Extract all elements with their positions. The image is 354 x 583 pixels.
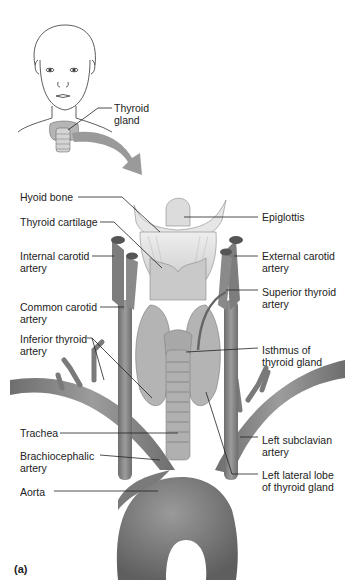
trachea-shape [166, 350, 190, 460]
left-common-carotid-shape [224, 300, 238, 480]
label-internal-carotid-artery: Internal carotid artery [20, 250, 89, 274]
thyroid-anatomy-figure: Thyroid gland Hyoid bone Thyroid cartila… [0, 0, 354, 583]
label-thyroid-gland-overview: Thyroid gland [114, 102, 154, 126]
label-aorta: Aorta [20, 486, 45, 498]
label-brachiocephalic-artery: Brachiocephalic artery [20, 450, 94, 474]
label-thyroid-cartilage: Thyroid cartilage [20, 216, 98, 228]
right-common-carotid-shape [118, 300, 132, 480]
label-left-subclavian-artery: Left subclavian artery [262, 434, 332, 458]
panel-label: (a) [14, 563, 27, 575]
label-hyoid-bone: Hyoid bone [20, 191, 73, 203]
epiglottis-shape [166, 198, 190, 226]
label-common-carotid-artery: Common carotid artery [20, 301, 97, 325]
label-superior-thyroid-artery: Superior thyroid artery [262, 286, 336, 310]
aorta-shape [117, 470, 238, 580]
zoom-arrow-icon [72, 132, 142, 175]
label-external-carotid-artery: External carotid artery [262, 250, 335, 274]
label-epiglottis: Epiglottis [262, 211, 305, 223]
label-isthmus-of-thyroid-gland: Isthmus of thyroid gland [262, 344, 322, 368]
head-outline-icon [18, 25, 112, 132]
label-left-lateral-lobe: Left lateral lobe of thyroid gland [262, 469, 334, 493]
right-thyroid-lobe-shape [136, 305, 170, 406]
label-inferior-thyroid-artery: Inferior thyroid artery [20, 333, 87, 357]
label-trachea: Trachea [20, 427, 58, 439]
